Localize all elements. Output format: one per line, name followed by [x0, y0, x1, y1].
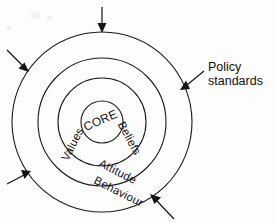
label-beliefs: Beliefs: [116, 119, 143, 156]
arrow-right-icon: [180, 71, 204, 90]
callout-line-1: Policy: [208, 60, 263, 74]
arrow-top-icon: [98, 7, 107, 33]
diagram-canvas: CORE Values Beliefs Attitude Behaviour: [0, 0, 276, 223]
label-behaviour: Behaviour: [92, 174, 145, 209]
concentric-rings-diagram: CORE Values Beliefs Attitude Behaviour: [0, 0, 276, 223]
callout-line-2: standards: [208, 74, 263, 88]
arrow-upper-left-icon: [7, 50, 29, 72]
label-core: CORE: [81, 107, 119, 134]
arrow-lower-left-icon: [7, 170, 31, 184]
label-values: Values: [59, 126, 86, 163]
callout-policy-standards: Policy standards: [208, 60, 263, 88]
arrow-bottom-icon: [150, 194, 174, 219]
